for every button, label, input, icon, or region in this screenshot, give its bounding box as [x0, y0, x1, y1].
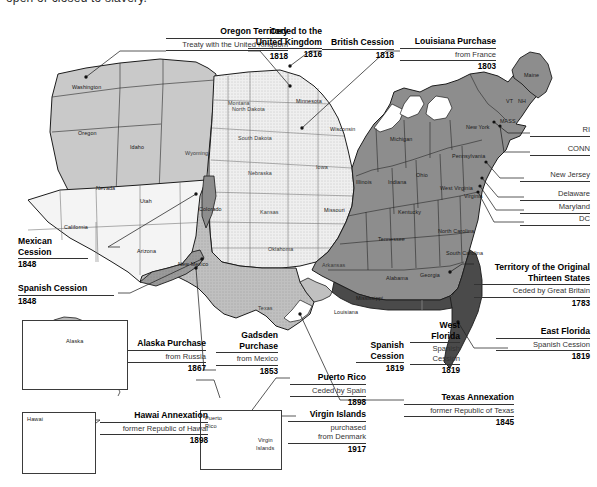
callout-title-line1: Territory of the Original — [474, 262, 590, 273]
callout-year: 1819 — [410, 366, 460, 376]
edge-label-dc: DC — [520, 214, 590, 227]
state-label-arizona: Arizona — [137, 248, 156, 254]
divider — [520, 181, 590, 182]
edge-label-new-jersey: New Jersey — [520, 170, 590, 183]
state-label-west-virginia: West Virginia — [440, 185, 473, 191]
divider — [530, 155, 590, 156]
territorial-acquisitions-map: open or closed to slavery. — [0, 0, 597, 487]
callout-subtitle-line1: Spanish — [410, 344, 460, 354]
divider — [216, 352, 278, 353]
divider — [410, 342, 460, 343]
callout-spanish-cession-west: Spanish Cession 1848 — [18, 283, 114, 307]
state-label-arkansas: Arkansas — [322, 262, 345, 268]
state-label-utah: Utah — [140, 198, 152, 204]
edge-label-conn: CONN — [530, 144, 590, 157]
callout-year: 1816 — [248, 50, 322, 60]
callout-title: Puerto Rico — [290, 372, 366, 383]
divider — [530, 136, 590, 137]
callout-texas-annexation: Texas Annexation former Republic of Texa… — [404, 392, 514, 428]
state-label-oregon: Oregon — [78, 130, 97, 136]
state-label-illinois: Illinois — [356, 179, 372, 185]
divider — [290, 396, 366, 397]
state-label-south-carolina: South Carolina — [446, 250, 483, 256]
callout-title-line2: Florida — [410, 331, 460, 342]
divider — [288, 443, 366, 444]
callout-subtitle: from France — [400, 50, 496, 60]
callout-title: Virgin Islands — [288, 409, 366, 420]
divider — [410, 364, 460, 365]
inset-label-virgin-islands-line2: Islands — [256, 445, 274, 451]
inset-label-alaska: Alaska — [66, 338, 83, 344]
callout-mexican-cession: Mexican Cession 1848 — [18, 236, 88, 270]
state-label-ohio: Ohio — [416, 172, 428, 178]
label-text: DC — [520, 214, 590, 224]
state-label-louisiana: Louisiana — [334, 309, 358, 315]
label-text: CONN — [530, 144, 590, 154]
state-label-michigan: Michigan — [390, 136, 412, 142]
callout-title-line1: West — [410, 320, 460, 331]
callout-title: Texas Annexation — [404, 392, 514, 403]
state-label-nebraska: Nebraska — [248, 170, 272, 176]
state-label-virginia: Virginia — [464, 193, 483, 199]
label-text: New Jersey — [520, 170, 590, 180]
state-label-colorado: Colorado — [199, 206, 222, 212]
callout-title-line1: Ceded to the — [248, 26, 322, 37]
callout-title: Spanish Cession — [18, 283, 114, 294]
callout-year: 1848 — [18, 297, 114, 307]
inset-label-puerto-rico-line1: Puerto — [205, 415, 222, 421]
state-label-alabama: Alabama — [386, 275, 408, 281]
callout-puerto-rico: Puerto Rico Ceded by Spain 1898 — [290, 372, 366, 408]
divider — [290, 384, 366, 385]
state-label-tennessee: Tennessee — [378, 236, 405, 242]
callout-virgin-islands: Virgin Islands purchased from Denmark 19… — [288, 409, 366, 455]
state-label-california: California — [64, 224, 88, 230]
state-label-indiana: Indiana — [388, 179, 406, 185]
callout-original-thirteen: Territory of the Original Thirteen State… — [474, 262, 590, 309]
state-label-nh: NH — [518, 98, 526, 104]
callout-title: East Florida — [496, 326, 590, 337]
state-label-south-dakota: South Dakota — [238, 135, 272, 141]
edge-label-delaware: Delaware — [520, 189, 590, 202]
callout-year: 1898 — [290, 398, 366, 408]
divider — [100, 422, 208, 423]
divider — [496, 350, 590, 351]
divider — [18, 258, 88, 259]
callout-title-line2: Thirteen States — [474, 273, 590, 284]
callout-title-line1: Gadsden — [216, 330, 278, 341]
callout-title-line2: Cession — [356, 351, 404, 362]
divider — [18, 295, 114, 296]
callout-subtitle: former Republic of Texas — [404, 406, 514, 416]
callout-year: 1853 — [216, 367, 278, 377]
callout-ceded-to-uk: Ceded to the United Kingdom 1816 — [248, 26, 322, 60]
divider — [474, 284, 590, 285]
divider — [128, 362, 206, 363]
label-text: RI — [530, 125, 590, 135]
callout-year: 1848 — [18, 260, 88, 270]
callout-year: 1818 — [322, 51, 394, 61]
divider — [216, 365, 278, 366]
divider — [520, 200, 590, 201]
divider — [100, 434, 208, 435]
state-label-washington: Washington — [72, 84, 101, 90]
callout-year: 1898 — [100, 436, 208, 446]
state-label-missouri: Missouri — [324, 207, 345, 213]
state-label-wyoming: Wyoming — [185, 150, 208, 156]
state-label-oklahoma: Oklahoma — [268, 246, 293, 252]
state-label-north-dakota: North Dakota — [232, 106, 265, 112]
state-label-texas: Texas — [258, 305, 273, 311]
callout-subtitle-line2: Cession — [410, 354, 460, 364]
callout-year: 1917 — [288, 445, 366, 455]
callout-title-line2: Purchase — [216, 341, 278, 352]
callout-east-florida: East Florida Spanish Cession 1819 — [496, 326, 590, 362]
divider — [496, 338, 590, 339]
state-label-vt: VT — [506, 98, 513, 104]
callout-subtitle: Ceded by Spain — [290, 386, 366, 396]
callout-year: 1867 — [128, 364, 206, 374]
callout-alaska-purchase: Alaska Purchase from Russia 1867 — [128, 338, 206, 374]
callout-title-line2: United Kingdom — [248, 37, 322, 48]
callout-subtitle-line1: purchased — [288, 423, 366, 433]
state-label-new-mexico: New Mexico — [178, 261, 208, 267]
divider — [288, 421, 366, 422]
edge-label-ri: RI — [530, 125, 590, 138]
callout-title: Louisiana Purchase — [400, 36, 496, 47]
